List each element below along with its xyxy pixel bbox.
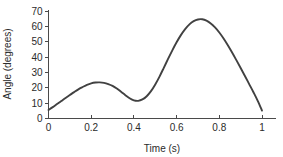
x-tick-label: 0.6 bbox=[170, 122, 184, 133]
x-axis-title: Time (s) bbox=[144, 143, 180, 154]
y-tick-label: 60 bbox=[31, 21, 43, 32]
y-tick-label: 10 bbox=[31, 98, 43, 109]
y-tick-label: 20 bbox=[31, 82, 43, 93]
y-tick-label: 40 bbox=[31, 52, 43, 63]
chart-container: 010203040506070 00.20.40.60.81 Time (s) … bbox=[0, 0, 283, 157]
x-tick-label: 0.2 bbox=[84, 122, 98, 133]
y-tick-label: 70 bbox=[31, 6, 43, 17]
angle-vs-time-line-chart: 010203040506070 00.20.40.60.81 Time (s) … bbox=[0, 0, 283, 157]
x-tick-label: 0 bbox=[46, 122, 52, 133]
x-tick-label: 0.4 bbox=[127, 122, 141, 133]
x-tick-label: 0.8 bbox=[212, 122, 226, 133]
y-axis-title: Angle (degrees) bbox=[2, 28, 13, 99]
y-tick-label: 30 bbox=[31, 67, 43, 78]
y-tick-label: 0 bbox=[37, 113, 43, 124]
x-tick-label: 1 bbox=[259, 122, 265, 133]
y-tick-label: 50 bbox=[31, 36, 43, 47]
